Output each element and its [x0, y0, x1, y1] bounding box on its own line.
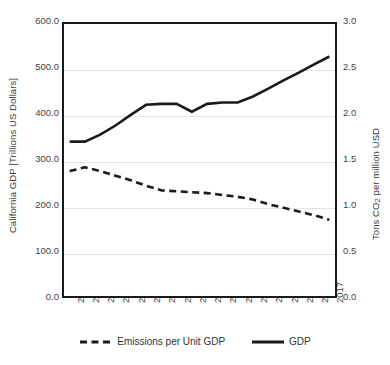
y-axis-left-tick-label: 300.0 — [0, 153, 59, 164]
y-axis-right-title: Tons CO2 per million USD — [370, 104, 382, 264]
legend-item-label: Emissions per Unit GDP — [117, 336, 225, 347]
legend-item[interactable]: Emissions per Unit GDP — [79, 336, 225, 347]
y-axis-left-tick-label: 600.0 — [0, 15, 59, 26]
y-axis-left-tick-label: 400.0 — [0, 107, 59, 118]
y-axis-right-tick-label: 1.5 — [343, 153, 383, 164]
legend-item-label: GDP — [289, 336, 311, 347]
y-axis-left-tick-label: 0.0 — [0, 291, 59, 302]
y-axis-right-tick-label: 1.0 — [343, 199, 383, 210]
y-axis-left-tick-label: 100.0 — [0, 245, 59, 256]
chart-legend: Emissions per Unit GDPGDP — [0, 336, 390, 347]
solid-line-swatch — [251, 337, 285, 347]
chart-container: California GDP [Trillions US Dollars] To… — [0, 0, 390, 365]
y-axis-right-tick-label: 0.5 — [343, 245, 383, 256]
data-series-layer — [62, 22, 337, 298]
y-axis-right-tick-label: 3.0 — [343, 15, 383, 26]
series-line-gdp — [70, 57, 330, 142]
y-axis-right-tick-label: 2.0 — [343, 107, 383, 118]
series-line-emissions-per-unit-gdp — [70, 167, 330, 219]
y-axis-right-tick-label: 0.0 — [343, 291, 383, 302]
y-axis-left-tick-label: 200.0 — [0, 199, 59, 210]
y-axis-left-tick-label: 500.0 — [0, 61, 59, 72]
y-axis-right-tick-label: 2.5 — [343, 61, 383, 72]
legend-item[interactable]: GDP — [251, 336, 311, 347]
dashed-line-swatch — [79, 337, 113, 347]
